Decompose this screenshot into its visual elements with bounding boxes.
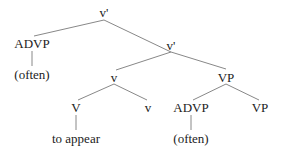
tree-edge <box>116 52 171 70</box>
tree-node-vp1: VP <box>218 71 235 85</box>
tree-node-toappear: to appear <box>52 132 100 146</box>
tree-edge <box>104 20 171 52</box>
tree-edge <box>171 52 226 69</box>
tree-edge <box>34 20 104 36</box>
tree-edge <box>193 84 226 100</box>
tree-node-root: v' <box>100 6 109 20</box>
tree-node-V: V <box>71 101 80 115</box>
tree-node-advp2: ADVP <box>173 101 208 115</box>
tree-edge <box>78 84 114 100</box>
tree-node-often2: (often) <box>173 132 208 146</box>
syntax-tree-diagram: v'ADVP(often)v'vVPVvADVPVPto appear(ofte… <box>0 0 284 153</box>
tree-node-vp2: VP <box>252 101 269 115</box>
tree-node-v_small: v <box>111 71 118 85</box>
tree-node-v2: v <box>145 101 152 115</box>
tree-node-advp1: ADVP <box>14 37 49 51</box>
tree-node-vbar: v' <box>167 39 176 53</box>
tree-edge <box>226 84 259 100</box>
tree-edge <box>114 84 147 100</box>
tree-node-often1: (often) <box>14 68 49 82</box>
